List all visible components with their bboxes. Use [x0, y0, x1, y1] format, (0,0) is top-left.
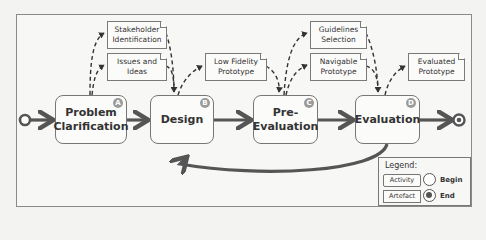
- activity-badge: D: [406, 98, 416, 108]
- activity-label: Evaluation: [355, 113, 421, 127]
- artefact-label: Evaluated: [418, 57, 456, 66]
- activity-design: Design B: [150, 95, 214, 144]
- end-circle-icon: [423, 189, 436, 202]
- artefact-evaluated-prototype: EvaluatedPrototype: [408, 53, 465, 81]
- legend-activity: Activity: [383, 174, 421, 187]
- activity-evaluation: Evaluation D: [355, 95, 420, 144]
- artefact-label: Selection: [321, 35, 356, 44]
- artefact-label: Issues and: [117, 57, 157, 66]
- activity-problem-clarification: ProblemClarification A: [55, 95, 127, 144]
- artefact-label: Navigable: [320, 57, 358, 66]
- artefact-label: Ideas: [127, 67, 147, 76]
- artefact-label: Stakeholder: [115, 25, 160, 34]
- activity-label: Pre-: [273, 106, 299, 119]
- activity-pre-evaluation: Pre-Evaluation C: [253, 95, 318, 144]
- activity-label: Problem: [65, 106, 117, 119]
- legend-begin-label: Begin: [440, 176, 462, 184]
- legend-title: Legend:: [385, 161, 417, 170]
- activity-badge: B: [200, 98, 210, 108]
- artefact-label: Identification: [112, 35, 161, 44]
- begin-circle-icon: [423, 173, 436, 186]
- artefact-label: Low Fidelity: [214, 57, 258, 66]
- artefact-label: Prototype: [320, 67, 356, 76]
- activity-label: Evaluation: [253, 120, 319, 133]
- artefact-navigable-prototype: NavigablePrototype: [310, 53, 367, 81]
- artefact-low-fidelity-prototype: Low FidelityPrototype: [205, 53, 267, 81]
- begin-node: [20, 115, 30, 125]
- legend-end-label: End: [440, 192, 455, 200]
- artefact-label: Prototype: [218, 67, 254, 76]
- activity-badge: A: [113, 98, 123, 108]
- legend-artefact: Artefact: [383, 190, 421, 203]
- artefact-guidelines-selection: GuidelinesSelection: [310, 21, 367, 49]
- activity-badge: C: [304, 98, 314, 108]
- legend: Legend: Activity Artefact Begin End: [378, 157, 471, 206]
- activity-label: Clarification: [54, 120, 129, 133]
- artefact-issues-and-ideas: Issues andIdeas: [107, 53, 167, 81]
- artefact-stakeholder-identification: StakeholderIdentification: [107, 21, 167, 49]
- artefact-label: Prototype: [418, 67, 454, 76]
- artefact-label: Guidelines: [319, 25, 358, 34]
- activity-label: Design: [161, 113, 204, 127]
